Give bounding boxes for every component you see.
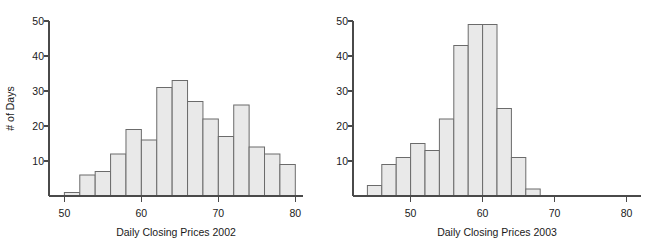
chart-panel-2002: 102030405050607080Daily Closing Prices 2… bbox=[0, 0, 329, 249]
chart-panel-2003: 102030405050607080Daily Closing Prices 2… bbox=[329, 0, 658, 249]
x-tick-label: 50 bbox=[405, 207, 417, 219]
histogram-bar bbox=[172, 81, 187, 197]
x-axis-title: Daily Closing Prices 2002 bbox=[116, 226, 236, 238]
histogram-bar bbox=[439, 119, 453, 196]
histogram-bar bbox=[280, 165, 295, 197]
x-tick-label: 60 bbox=[136, 207, 148, 219]
histogram-bar bbox=[141, 140, 156, 196]
y-tick-label: 50 bbox=[336, 15, 348, 27]
histogram-bar bbox=[425, 151, 439, 197]
y-axis-title: # of Days bbox=[4, 86, 16, 130]
x-tick-label: 70 bbox=[212, 207, 224, 219]
y-tick-label: 40 bbox=[32, 50, 44, 62]
histogram-bar bbox=[396, 158, 410, 197]
histogram-bar bbox=[497, 109, 511, 197]
histogram-figure: 102030405050607080Daily Closing Prices 2… bbox=[0, 0, 658, 249]
y-tick-label: 40 bbox=[336, 50, 348, 62]
histogram-bar bbox=[454, 46, 468, 197]
histogram-bar bbox=[188, 102, 203, 197]
histogram-bar bbox=[526, 189, 540, 196]
histogram-bar bbox=[126, 130, 141, 197]
histogram-bar bbox=[249, 147, 264, 196]
x-tick-label: 80 bbox=[289, 207, 301, 219]
histogram-bar bbox=[468, 25, 482, 197]
histogram-bar bbox=[382, 165, 396, 197]
x-axis-title: Daily Closing Prices 2003 bbox=[437, 226, 557, 238]
histogram-bar bbox=[367, 186, 381, 197]
histogram-bar bbox=[511, 158, 525, 197]
x-tick-label: 60 bbox=[477, 207, 489, 219]
histogram-bar bbox=[203, 119, 218, 196]
y-tick-label: 50 bbox=[32, 15, 44, 27]
x-tick-label: 50 bbox=[59, 207, 71, 219]
histogram-svg-2002: 102030405050607080Daily Closing Prices 2… bbox=[0, 0, 329, 249]
histogram-bar bbox=[95, 172, 110, 197]
histogram-bar bbox=[483, 25, 497, 197]
y-tick-label: 10 bbox=[336, 155, 348, 167]
x-tick-label: 80 bbox=[621, 207, 633, 219]
y-tick-label: 20 bbox=[32, 120, 44, 132]
histogram-svg-2003: 102030405050607080Daily Closing Prices 2… bbox=[329, 0, 658, 249]
histogram-bar bbox=[234, 105, 249, 196]
histogram-bar bbox=[157, 88, 172, 197]
histogram-bar bbox=[111, 154, 126, 196]
y-tick-label: 30 bbox=[336, 85, 348, 97]
x-tick-label: 70 bbox=[549, 207, 561, 219]
y-tick-label: 30 bbox=[32, 85, 44, 97]
histogram-bar bbox=[80, 175, 95, 196]
histogram-bar bbox=[265, 154, 280, 196]
histogram-bar bbox=[218, 137, 233, 197]
y-tick-label: 20 bbox=[336, 120, 348, 132]
histogram-bar bbox=[411, 144, 425, 197]
y-tick-label: 10 bbox=[32, 155, 44, 167]
